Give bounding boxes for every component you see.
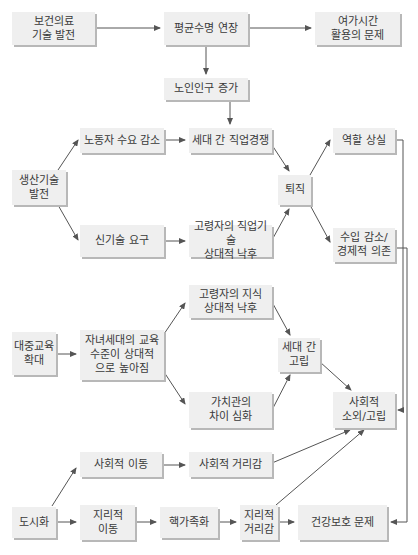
arrow-connector (164, 372, 185, 404)
node-geo-distance: 지리적 거리감 (240, 505, 278, 540)
arrow-connector (272, 209, 289, 240)
arrow-connector (395, 140, 403, 410)
node-mass-education: 대중교육 확대 (12, 332, 56, 375)
arrow-connector (58, 140, 78, 170)
arrow-connector (272, 145, 289, 171)
edge-group (52, 28, 407, 522)
node-nuclear-family: 핵가족화 (160, 507, 218, 538)
arrow-connector (164, 303, 185, 334)
node-social-isolation: 사회적 소외/고립 (333, 392, 395, 428)
node-job-skill-lag: 고령자의 직업기술 상대적 낙후 (189, 225, 272, 257)
node-geo-mobility: 지리적 이동 (80, 505, 135, 540)
node-social-mobility: 사회적 이동 (80, 452, 162, 477)
node-job-competition: 세대 간 직업경쟁 (189, 128, 272, 153)
node-health-care-problem: 건강보호 문제 (298, 505, 387, 540)
node-urbanization: 도시화 (12, 507, 56, 538)
node-value-gap: 가치관의 차이 심화 (189, 392, 272, 428)
node-role-loss: 역할 상실 (333, 128, 395, 153)
node-social-distance: 사회적 거리감 (189, 452, 272, 477)
flowchart-canvas: 보건의료 기술 발전 평균수명 연장 여가시간 활용의 문제 노인인구 증가 노… (0, 0, 418, 555)
node-life-expectancy: 평균수명 연장 (164, 12, 248, 45)
node-income-drop: 수입 감소/ 경제적 의존 (333, 228, 395, 262)
arrow-connector (272, 302, 290, 335)
arrow-connector (52, 468, 76, 506)
node-elderly-increase: 노인인구 증가 (164, 78, 248, 100)
arrow-connector (58, 205, 78, 240)
node-generation-isolation: 세대 간 고립 (278, 338, 320, 372)
node-leisure-problem: 여가시간 활용의 문제 (315, 12, 400, 45)
node-retirement: 퇴직 (278, 175, 311, 205)
node-production-tech: 생산기술 발전 (12, 170, 66, 205)
arrow-connector (272, 375, 290, 410)
arrow-connector (320, 362, 351, 390)
arrow-connector (310, 205, 330, 242)
arrow-connector (272, 430, 350, 463)
node-new-tech-demand: 신기술 요구 (80, 225, 164, 257)
node-knowledge-lag: 고령자의 지식 상대적 낙후 (189, 285, 272, 318)
arrow-connector (310, 140, 330, 175)
node-health-tech: 보건의료 기술 발전 (12, 12, 95, 45)
arrow-connector (391, 248, 407, 522)
node-children-education: 자녀세대의 교육 수준이 상대적 으로 높아짐 (80, 330, 164, 380)
arrow-connector (276, 430, 364, 505)
node-labor-demand-drop: 노동자 수요 감소 (80, 128, 164, 153)
